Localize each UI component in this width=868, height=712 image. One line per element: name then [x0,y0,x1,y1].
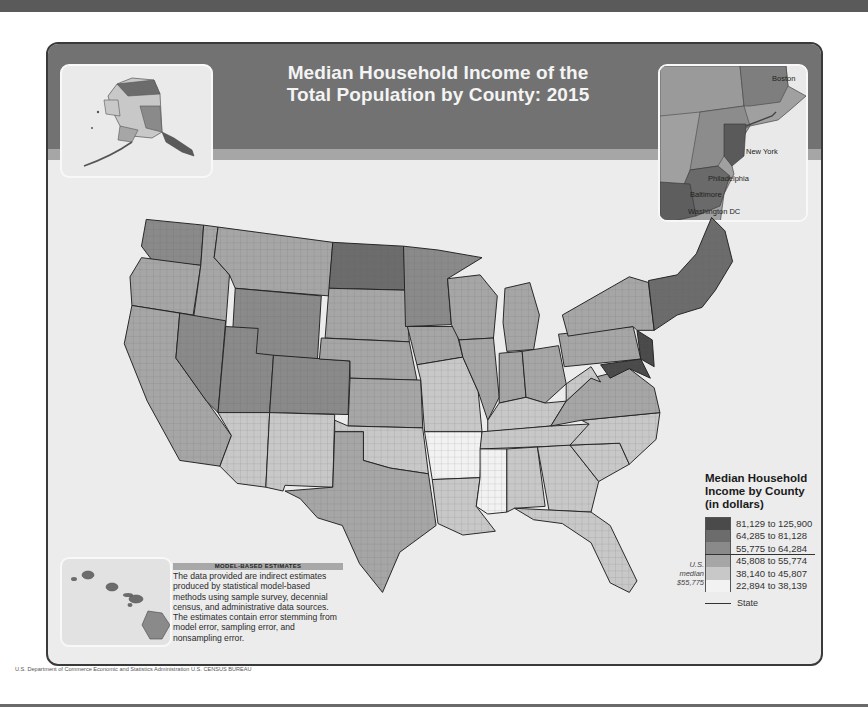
legend-title-line-3: (in dollars) [705,498,815,511]
contiguous-us-county-map: WashingtonOregonCaliforniaIdahoNevadaMon… [98,162,778,602]
median-note-line-1: U.S. [656,560,704,569]
state-region: Indiana [499,351,526,403]
legend-swatch [705,542,731,555]
state-region: Wisconsin [448,275,498,340]
state-region: Mississippi [476,449,507,514]
legend-class-3: 55,775 to64,284 [705,542,815,555]
state-region: North Dakota [329,242,406,290]
hawaii-inset [60,557,172,647]
legend-class-4: 45,808 to55,774 [705,555,815,568]
bottom-rule [0,704,868,707]
legend-swatch [705,517,731,530]
median-note-value: $55,775 [656,578,704,587]
map-title-line-1: Median Household Income of the [228,62,648,84]
legend-swatch [705,567,731,580]
legend-title: Median Household Income by County (in do… [705,472,815,511]
state-region: New York [562,277,654,336]
state-region: Michigan [503,283,539,352]
state-boundary-key: State [705,598,815,608]
legend-title-line-2: Income by County [705,485,815,498]
us-median-divider [705,554,815,555]
model-based-estimates-note: MODEL-BASED ESTIMATES The data provided … [173,563,343,643]
legend-class-6: 22,894 to38,139 [705,580,815,593]
legend-class-5: 38,140 to45,807 [705,567,815,580]
legend-classes: 81,129 to125,900 64,285 to81,128 55,775 … [705,517,815,592]
top-dark-strip [0,0,868,12]
state-region: New England [648,217,732,330]
state-regions: WashingtonOregonCaliforniaIdahoNevadaMon… [124,217,732,592]
hawaii-map [62,559,172,647]
note-body: The data provided are indirect estimates… [173,571,343,643]
median-note-line-2: median [656,569,704,578]
state-region: Florida [515,508,637,592]
state-region: Arkansas [425,432,482,480]
city-label-new-york: New York [746,147,778,156]
legend-title-line-1: Median Household [705,472,815,485]
map-title: Median Household Income of the Total Pop… [228,62,648,106]
state-region: Kansas [348,378,423,428]
state-region: Arizona [218,413,270,488]
state-region: Montana [214,227,333,296]
legend-swatch [705,580,731,593]
state-region: Colorado [270,355,350,414]
legend-swatch [705,555,731,568]
city-label-boston: Boston [772,74,795,83]
state-boundary-line-icon [705,603,731,604]
state-region: Ohio [522,346,566,403]
state-region: South Dakota [325,288,409,342]
credit-line: U.S. Department of Commerce Economic and… [15,666,252,672]
legend-class-1: 81,129 to125,900 [705,517,815,530]
us-median-annotation: U.S. median $55,775 [656,560,704,587]
legend-class-2: 64,285 to81,128 [705,530,815,543]
legend-swatch [705,530,731,543]
state-region: New Mexico [266,413,335,491]
legend: Median Household Income by County (in do… [705,472,815,608]
state-boundary-label: State [737,598,758,608]
map-title-line-2: Total Population by County: 2015 [228,84,648,106]
map-poster-frame: Median Household Income of the Total Pop… [46,42,823,666]
alaska-inset [60,64,213,178]
note-heading: MODEL-BASED ESTIMATES [173,563,343,570]
